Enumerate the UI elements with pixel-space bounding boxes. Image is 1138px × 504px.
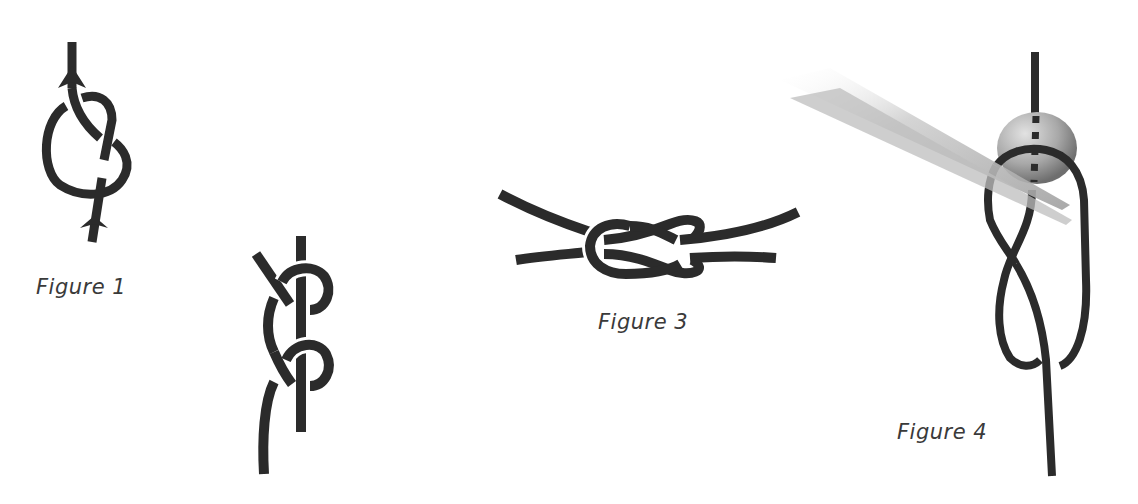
figure-2-knot-illustration [230, 220, 360, 490]
figure-4-label: Figure 4 [897, 420, 987, 444]
knot-diagram: Figure 1 Figure 3 [0, 0, 1138, 504]
figure-3-label: Figure 3 [598, 310, 688, 334]
figure-1-label: Figure 1 [36, 275, 126, 299]
figure-1-knot-illustration [30, 30, 170, 260]
